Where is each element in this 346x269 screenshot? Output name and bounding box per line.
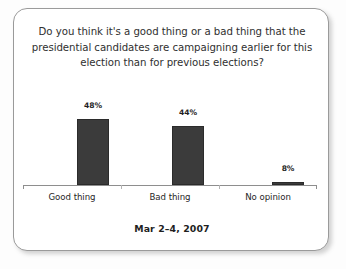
category-label-bad-thing: Bad thing — [140, 192, 200, 202]
axis-tick-left — [23, 185, 24, 189]
bar-chart-plot-area: 48% 44% 8% Good thing Bad thing No opini… — [14, 9, 330, 252]
category-label-good-thing: Good thing — [42, 192, 102, 202]
bar-good-thing — [77, 119, 109, 185]
poll-chart-card: Do you think it's a good thing or a bad … — [13, 8, 329, 251]
axis-tick-1 — [121, 185, 122, 189]
bar-value-label-2: 8% — [257, 164, 319, 173]
bar-value-label-0: 48% — [62, 101, 124, 110]
category-axis-line — [23, 185, 317, 186]
category-label-no-opinion: No opinion — [238, 192, 298, 202]
survey-date-caption: Mar 2–4, 2007 — [14, 223, 330, 234]
axis-tick-2 — [219, 185, 220, 189]
bar-bad-thing — [172, 126, 204, 185]
axis-tick-right — [316, 185, 317, 189]
bar-value-label-1: 44% — [157, 108, 219, 117]
